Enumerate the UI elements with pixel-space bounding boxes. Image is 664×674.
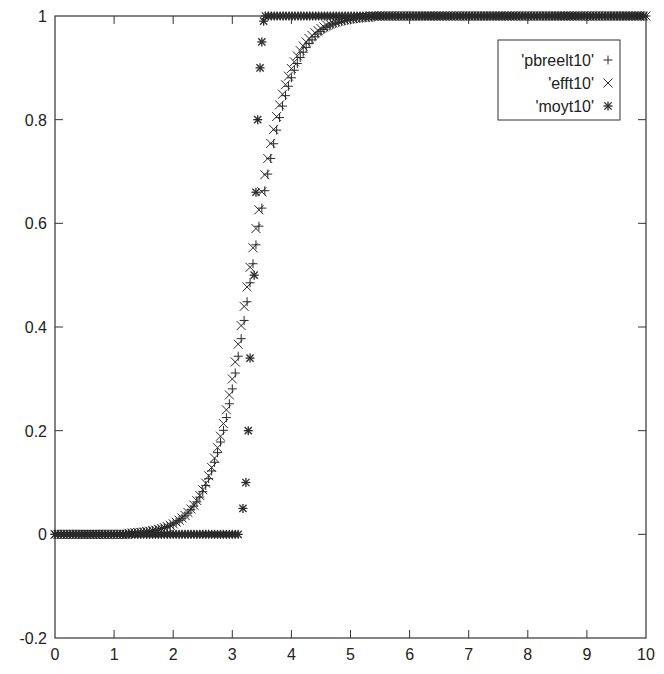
line-chart: 012345678910 -0.200.20.40.60.81 'pbreelt… xyxy=(0,0,664,674)
x-tick-label: 4 xyxy=(287,646,296,663)
x-tick-label: 1 xyxy=(110,646,119,663)
x-tick-label: 2 xyxy=(169,646,178,663)
y-tick-label: 0 xyxy=(38,526,47,543)
x-tick-label: 3 xyxy=(228,646,237,663)
legend-marker-icon xyxy=(604,102,613,111)
legend: 'pbreelt10''efft10''moyt10' xyxy=(498,40,620,120)
legend-item-label: 'efft10' xyxy=(548,75,594,92)
y-tick-label: 1 xyxy=(38,8,47,25)
y-tick-label: 0.8 xyxy=(25,112,47,129)
y-tick-label: 0.4 xyxy=(25,319,47,336)
x-tick-label: 7 xyxy=(464,646,473,663)
x-tick-label: 0 xyxy=(51,646,60,663)
x-tick-label: 8 xyxy=(523,646,532,663)
y-tick-label: -0.2 xyxy=(19,630,47,647)
legend-item-label: 'pbreelt10' xyxy=(521,52,594,69)
x-tick-label: 6 xyxy=(405,646,414,663)
x-tick-label: 10 xyxy=(637,646,655,663)
y-tick-label: 0.2 xyxy=(25,423,47,440)
y-tick-label: 0.6 xyxy=(25,215,47,232)
x-tick-label: 9 xyxy=(582,646,591,663)
legend-item-label: 'moyt10' xyxy=(535,98,594,115)
x-tick-label: 5 xyxy=(346,646,355,663)
